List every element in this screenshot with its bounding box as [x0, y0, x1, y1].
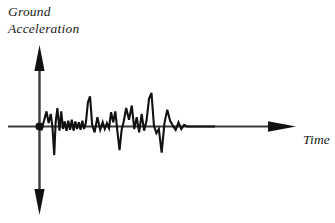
x-axis-right-arrowhead-icon	[268, 121, 296, 132]
y-axis-label-line1: Ground	[8, 4, 51, 19]
y-axis-up-arrowhead-icon	[34, 45, 44, 71]
y-axis-down-arrowhead-icon	[34, 189, 44, 215]
seismic-waveform-trace	[40, 93, 216, 155]
ground-acceleration-diagram: Ground Acceleration Time	[0, 0, 335, 223]
x-axis-label: Time	[303, 132, 330, 147]
figure-canvas: Ground Acceleration Time	[0, 0, 335, 223]
y-axis-label-line2: Acceleration	[7, 21, 79, 36]
